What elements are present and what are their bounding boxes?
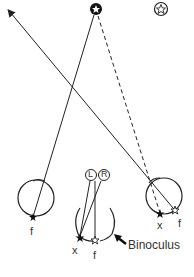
left-eye-fovea-star-icon xyxy=(29,213,37,221)
left-eye-visual-axis-line xyxy=(33,15,94,217)
binoculus-R-line xyxy=(80,181,101,236)
left-eye-f-label: f xyxy=(30,226,33,237)
outlined-star-object-icon xyxy=(155,3,168,16)
binoculus-x-label: x xyxy=(72,245,78,256)
binoculus-x-star-icon xyxy=(76,233,85,242)
binoculus-L-line xyxy=(80,181,90,236)
binoculus-label: Binoculus xyxy=(128,239,180,251)
binoculus-left-arc xyxy=(76,208,95,241)
projection-arrow-line xyxy=(10,12,178,214)
left-eye xyxy=(18,180,54,222)
binoculus-right-arc xyxy=(100,208,115,241)
binoculus-pointer-arrow-icon xyxy=(114,234,126,244)
right-eye-x-label: x xyxy=(157,220,163,231)
right-eye-x-star-icon xyxy=(156,209,165,218)
fixation-object-icon xyxy=(90,3,102,15)
right-eye-f-label: f xyxy=(178,218,181,229)
badge-R-label: R xyxy=(101,170,108,179)
binoculus-f-label: f xyxy=(93,250,96,261)
binoculus-fovea-star-icon xyxy=(91,236,99,244)
right-eye xyxy=(146,178,182,218)
badge-L-label: L xyxy=(88,170,93,179)
